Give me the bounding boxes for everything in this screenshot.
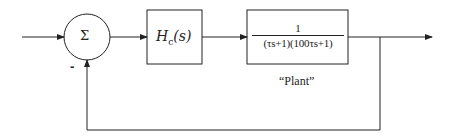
feedback-path: [87, 37, 380, 130]
plant-transfer-function: 1 (τs+1)(100τs+1): [250, 22, 346, 49]
controller-label-main: H: [156, 28, 168, 44]
fraction-bar: [252, 35, 344, 36]
plant-denominator: (τs+1)(100τs+1): [250, 37, 346, 49]
controller-label-arg: (s): [173, 28, 191, 44]
controller-label: Hc(s): [156, 28, 191, 47]
plant-numerator: 1: [250, 22, 346, 34]
diagram-lines: [0, 0, 452, 137]
block-diagram: Σ - Hc(s) 1 (τs+1)(100τs+1) “Plant”: [0, 0, 452, 137]
sigma-symbol: Σ: [80, 28, 89, 43]
feedback-sign: -: [70, 59, 74, 74]
plant-caption: “Plant”: [279, 74, 314, 89]
